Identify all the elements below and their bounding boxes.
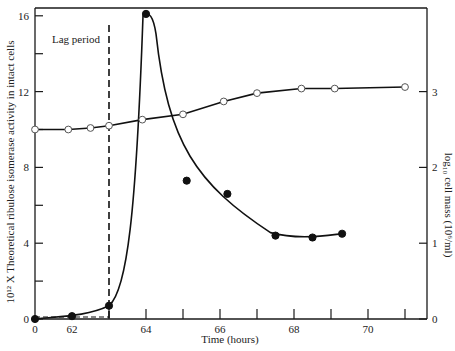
cell-mass-point <box>254 90 261 97</box>
cell-mass-point <box>180 111 187 118</box>
isomerase-point <box>183 177 190 184</box>
isomerase-point <box>272 232 279 239</box>
cell-mass-point <box>65 126 72 133</box>
isomerase-point <box>339 230 346 237</box>
cell-mass-curve <box>35 87 405 129</box>
y-tick-label: 12 <box>18 86 29 98</box>
x-tick-label: 0 <box>32 323 38 335</box>
x-tick-label: 62 <box>67 323 78 335</box>
isomerase-point <box>142 10 149 17</box>
y2-tick-label: 0 <box>432 313 438 325</box>
y-axis-label: 10¹² X Theoretical ribulose isomerase ac… <box>4 41 16 304</box>
isomerase-activity-curve <box>35 14 342 319</box>
cell-mass-point <box>139 116 146 123</box>
isomerase-point <box>309 234 316 241</box>
x-tick-label: 68 <box>289 323 301 335</box>
ticks: 0481216012306264666870 <box>18 10 438 335</box>
isomerase-point <box>68 313 75 320</box>
cell-mass-point <box>220 98 227 105</box>
cell-mass-point <box>32 126 39 133</box>
x-axis-label: Time (hours) <box>201 333 259 346</box>
cell-mass-point <box>402 84 409 91</box>
y2-tick-label: 2 <box>432 161 438 173</box>
points <box>31 10 408 322</box>
x-tick-label: 70 <box>363 323 375 335</box>
x-tick-label: 64 <box>141 323 153 335</box>
cell-mass-point <box>87 125 94 132</box>
y2-tick-label: 3 <box>432 86 438 98</box>
y-tick-label: 8 <box>24 161 30 173</box>
isomerase-point <box>224 190 231 197</box>
cell-mass-point <box>331 85 338 92</box>
cell-mass-point <box>298 85 305 92</box>
axes <box>35 8 427 319</box>
chart: 0481216012306264666870 Time (hours) 10¹²… <box>0 0 455 351</box>
y2-tick-label: 1 <box>432 237 438 249</box>
isomerase-point <box>105 302 112 309</box>
y-tick-label: 4 <box>24 237 30 249</box>
curves <box>35 14 405 319</box>
y-tick-label: 0 <box>24 313 30 325</box>
cell-mass-point <box>106 122 113 129</box>
y2-axis-label: log₁₀ cell mass (10⁶/ml) <box>442 153 455 258</box>
lag-period-annotation: Lag period <box>52 33 100 45</box>
y-tick-label: 16 <box>18 10 30 22</box>
isomerase-point <box>31 315 38 322</box>
